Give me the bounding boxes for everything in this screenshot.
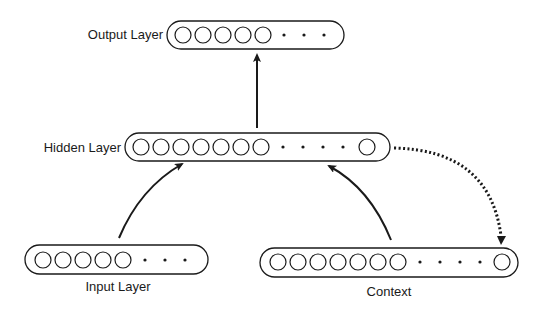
ellipsis-dot — [281, 145, 284, 148]
neuron-unit — [175, 27, 191, 43]
input-layer: Input Layer — [25, 245, 208, 294]
input-to-hidden-arrow-icon — [119, 164, 182, 238]
neuron-unit — [215, 27, 231, 43]
neuron-unit — [270, 254, 286, 270]
dotted-arrowhead-icon — [497, 236, 506, 245]
ellipsis-dot — [301, 145, 304, 148]
neuron-unit — [173, 139, 189, 155]
ellipsis-dot — [163, 258, 166, 261]
neuron-unit — [330, 254, 346, 270]
neuron-unit — [115, 252, 131, 268]
hidden-units — [133, 139, 375, 155]
network-diagram: Output Layer Hidden Layer — [0, 0, 542, 313]
neuron-unit — [133, 139, 149, 155]
ellipsis-dot — [321, 145, 324, 148]
context-to-hidden-arrow-icon — [329, 166, 391, 240]
neuron-unit — [55, 252, 71, 268]
ellipsis-dot — [458, 260, 461, 263]
neuron-unit — [359, 139, 375, 155]
neuron-unit — [75, 252, 91, 268]
output-layer-label: Output Layer — [88, 27, 164, 42]
neuron-unit — [193, 139, 209, 155]
output-layer: Output Layer — [88, 21, 344, 49]
ellipsis-dot — [341, 145, 344, 148]
ellipsis-dot — [302, 33, 305, 36]
neuron-unit — [213, 139, 229, 155]
neuron-unit — [390, 254, 406, 270]
hidden-layer-label: Hidden Layer — [44, 140, 122, 155]
context-layer-label: Context — [367, 284, 412, 299]
neuron-unit — [370, 254, 386, 270]
context-units — [270, 254, 510, 270]
neuron-unit — [35, 252, 51, 268]
context-layer: Context — [260, 248, 518, 299]
neuron-unit — [233, 139, 249, 155]
neuron-unit — [310, 254, 326, 270]
neuron-unit — [290, 254, 306, 270]
neuron-unit — [494, 254, 510, 270]
input-layer-label: Input Layer — [85, 279, 151, 294]
ellipsis-dot — [282, 33, 285, 36]
neuron-unit — [153, 139, 169, 155]
ellipsis-dot — [418, 260, 421, 263]
neuron-unit — [350, 254, 366, 270]
hidden-layer: Hidden Layer — [44, 133, 390, 161]
output-units — [175, 27, 326, 43]
ellipsis-dot — [143, 258, 146, 261]
ellipsis-dot — [478, 260, 481, 263]
ellipsis-dot — [322, 33, 325, 36]
hidden-to-context-dotted-arrow-icon — [394, 148, 501, 236]
neuron-unit — [253, 139, 269, 155]
ellipsis-dot — [438, 260, 441, 263]
neuron-unit — [235, 27, 251, 43]
neuron-unit — [95, 252, 111, 268]
neuron-unit — [255, 27, 271, 43]
input-units — [35, 252, 187, 268]
ellipsis-dot — [183, 258, 186, 261]
neuron-unit — [195, 27, 211, 43]
